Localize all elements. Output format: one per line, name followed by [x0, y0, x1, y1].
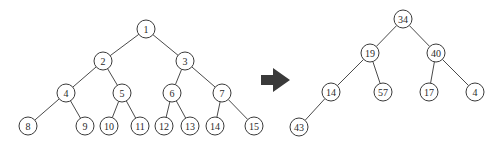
left-edge-5-11: [126, 101, 135, 118]
node-label: 10: [104, 121, 114, 132]
left-edge-3-7: [192, 67, 215, 87]
node-label: 13: [185, 121, 195, 132]
node-label: 43: [294, 122, 304, 133]
left-node-6: 6: [163, 84, 181, 102]
left-edge-2-4: [73, 67, 96, 87]
node-label: 7: [220, 88, 225, 99]
left-edge-3-6: [175, 69, 181, 84]
node-label: 5: [120, 88, 125, 99]
right-edge-19-57: [373, 62, 380, 84]
right-node-14: 14: [322, 83, 340, 101]
left-node-12: 12: [155, 117, 173, 135]
node-label: 12: [159, 121, 169, 132]
left-node-7: 7: [213, 84, 231, 102]
node-label: 19: [365, 48, 375, 59]
node-label: 34: [398, 14, 408, 25]
right-arrow-icon: [261, 68, 290, 92]
node-label: 4: [473, 87, 478, 98]
right-edge-14-43: [305, 99, 325, 121]
left-edge-7-15: [228, 99, 247, 119]
node-label: 15: [249, 121, 259, 132]
left-node-11: 11: [131, 117, 149, 135]
left-edge-7-14: [217, 102, 220, 117]
right-node-4: 4: [466, 83, 484, 101]
right-node-17: 17: [420, 83, 438, 101]
node-label: 4: [64, 88, 69, 99]
node-label: 57: [378, 87, 388, 98]
node-label: 9: [83, 121, 88, 132]
left-node-5: 5: [113, 84, 131, 102]
right-node-34: 34: [394, 10, 412, 28]
right-tree-edges: [305, 25, 469, 120]
left-node-15: 15: [245, 117, 263, 135]
right-node-57: 57: [374, 83, 392, 101]
left-node-1: 1: [137, 20, 155, 38]
left-node-9: 9: [76, 117, 94, 135]
right-edge-34-40: [409, 25, 429, 46]
left-node-8: 8: [19, 117, 37, 135]
left-tree-nodes: 123456789101112131415: [19, 20, 263, 135]
left-node-3: 3: [176, 52, 194, 70]
right-edge-19-14: [337, 59, 363, 85]
left-tree-edges: [35, 34, 248, 120]
right-node-19: 19: [361, 44, 379, 62]
left-edge-6-12: [166, 102, 170, 118]
right-node-43: 43: [290, 118, 308, 136]
right-edge-40-17: [431, 62, 435, 83]
left-edge-1-2: [110, 34, 139, 55]
left-node-2: 2: [94, 52, 112, 70]
right-edge-34-19: [376, 25, 396, 46]
node-label: 40: [431, 48, 441, 59]
node-label: 2: [101, 56, 106, 67]
right-node-40: 40: [427, 44, 445, 62]
left-edge-2-5: [108, 69, 118, 86]
tree-diagram: 123456789101112131415 341940145717443: [0, 0, 500, 147]
right-edge-40-4: [442, 59, 468, 85]
node-label: 11: [135, 121, 145, 132]
left-edge-4-9: [70, 101, 80, 118]
left-node-13: 13: [181, 117, 199, 135]
left-edge-1-3: [153, 35, 178, 56]
node-label: 6: [170, 88, 175, 99]
node-label: 1: [144, 24, 149, 35]
node-label: 14: [326, 87, 336, 98]
left-node-14: 14: [206, 117, 224, 135]
node-label: 14: [210, 121, 220, 132]
left-edge-6-13: [176, 101, 185, 118]
left-edge-4-8: [35, 99, 59, 120]
node-label: 3: [183, 56, 188, 67]
node-label: 17: [424, 87, 434, 98]
right-tree-nodes: 341940145717443: [290, 10, 484, 136]
left-node-10: 10: [100, 117, 118, 135]
node-label: 8: [26, 121, 31, 132]
left-node-4: 4: [57, 84, 75, 102]
left-edge-5-10: [112, 101, 118, 117]
